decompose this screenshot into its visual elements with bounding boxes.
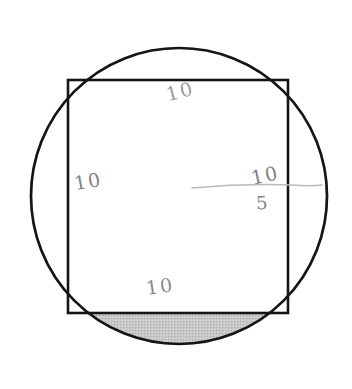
annotation-denominator-5: 5 — [255, 192, 270, 214]
side-length-label-bottom: 10 — [145, 273, 176, 299]
figure-canvas — [0, 0, 352, 389]
geometry-figure: 10 10 10 10 5 — [0, 0, 352, 389]
